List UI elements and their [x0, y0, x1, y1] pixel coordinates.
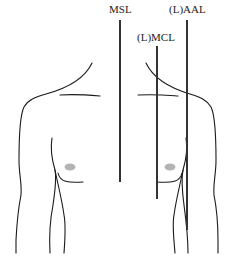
left-pectoral-fold	[58, 173, 83, 182]
left-shoulder-outline	[16, 63, 92, 253]
left-nipple	[65, 164, 76, 171]
aal-label: (L)AAL	[169, 4, 206, 15]
left-inner-arm	[55, 170, 65, 253]
left-clavicle	[60, 95, 100, 96]
msl-label: MSL	[109, 4, 132, 15]
right-pectoral-fold	[157, 173, 182, 182]
right-nipple	[165, 164, 176, 171]
right-inner-arm	[173, 170, 183, 253]
chest-diagram	[0, 0, 229, 265]
left-torso-outline	[50, 138, 56, 253]
mcl-label: (L)MCL	[137, 32, 175, 43]
